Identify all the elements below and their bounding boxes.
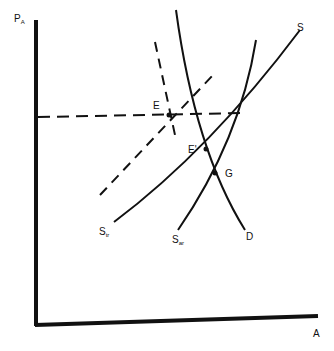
x-axis [35, 316, 318, 325]
label-e-prime: E' [188, 144, 197, 155]
y-axis-label: PA [14, 13, 25, 25]
dashed-supply-curve [100, 75, 213, 195]
label-d: D [246, 231, 253, 242]
x-axis-label: A [313, 328, 320, 339]
supply-curve-s-ar [178, 40, 256, 230]
label-s-ar: Sar [172, 234, 184, 246]
price-dashed-line [38, 113, 243, 117]
label-s-tr: Str [99, 226, 109, 238]
dashed-steep-curve [155, 42, 175, 135]
point-g-marker [213, 171, 218, 176]
label-e: E [153, 100, 160, 111]
label-g: G [225, 168, 233, 179]
point-e-marker [167, 113, 172, 118]
economics-diagram: PA A S Str Sar D E E' G [0, 0, 334, 351]
point-e-prime-marker [204, 147, 209, 152]
label-s: S [297, 22, 304, 33]
supply-curve-s [114, 30, 300, 222]
